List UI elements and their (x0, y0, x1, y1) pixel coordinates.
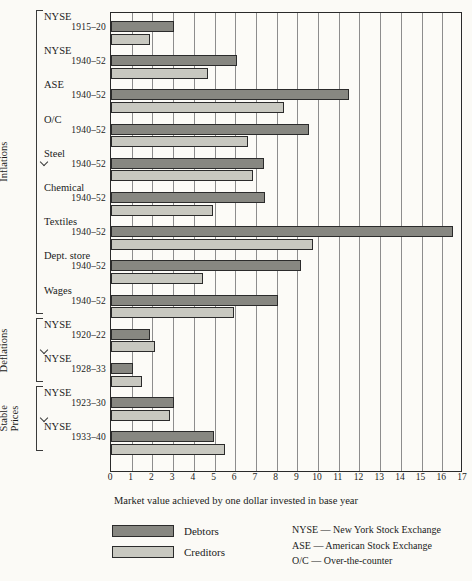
category-name: Wages (44, 285, 106, 296)
abbreviation-line: ASE — American Stock Exchange (292, 538, 441, 554)
category-name: O/C (44, 114, 106, 125)
bar-debtors (111, 363, 133, 374)
category-years: 1915–20 (44, 22, 106, 32)
category-years: 1933–40 (44, 432, 106, 442)
bar-creditors (111, 170, 253, 181)
category-label: Wages1940–52 (44, 285, 106, 306)
category-label: NYSE1940–52 (44, 45, 106, 66)
section-title: Inflations (0, 10, 9, 314)
bar-creditors (111, 68, 208, 79)
category-label: NYSE1923–30 (44, 387, 106, 408)
bar-creditors (111, 341, 155, 352)
x-axis-ticks: 01234567891011121314151617 (110, 472, 462, 486)
bar-rows (111, 13, 461, 471)
bar-creditors (111, 444, 225, 455)
section-title-line: Prices (9, 386, 20, 450)
bar-chart: NYSE1915–20NYSE1940–52ASE1940–52O/C1940–… (0, 0, 472, 581)
x-tick-label: 12 (354, 472, 364, 482)
bar-debtors (111, 89, 349, 100)
legend-label-creditors: Creditors (184, 546, 225, 558)
category-years: 1940–52 (44, 90, 106, 100)
category-years: 1940–52 (44, 261, 106, 271)
legend-item-debtors: Debtors (112, 522, 225, 539)
category-label: Steel1940–52 (44, 148, 106, 169)
bar-creditors (111, 136, 248, 147)
category-years: 1940–52 (44, 227, 106, 237)
plot-area (110, 12, 462, 472)
category-years: 1923–30 (44, 398, 106, 408)
section-title: StablePrices (0, 386, 20, 450)
x-tick-label: 0 (108, 472, 113, 482)
bar-creditors (111, 205, 213, 216)
category-name: NYSE (44, 45, 106, 56)
bar-debtors (111, 260, 301, 271)
bar-debtors (111, 431, 214, 442)
legend-label-debtors: Debtors (184, 525, 219, 537)
category-years: 1940–52 (44, 193, 106, 203)
legend-swatch-creditors (112, 546, 174, 558)
bar-debtors (111, 295, 278, 306)
category-name: NYSE (44, 387, 106, 398)
category-name: NYSE (44, 421, 106, 432)
x-tick-label: 13 (374, 472, 384, 482)
bar-creditors (111, 239, 313, 250)
bar-creditors (111, 102, 284, 113)
bar-creditors (111, 307, 234, 318)
x-tick-label: 7 (253, 472, 258, 482)
category-label: NYSE1920–22 (44, 319, 106, 340)
x-tick-label: 15 (416, 472, 426, 482)
bar-creditors (111, 410, 170, 421)
section-title: Deflations (0, 318, 9, 382)
bar-debtors (111, 158, 264, 169)
bar-debtors (111, 55, 237, 66)
category-name: ASE (44, 79, 106, 90)
category-name: Chemical (44, 182, 106, 193)
x-tick-label: 16 (437, 472, 447, 482)
category-label: ASE1940–52 (44, 79, 106, 100)
bar-debtors (111, 397, 174, 408)
bar-creditors (111, 376, 142, 387)
bar-creditors (111, 273, 203, 284)
section-brace (36, 386, 43, 450)
bar-debtors (111, 21, 174, 32)
x-tick-label: 1 (128, 472, 133, 482)
legend-swatch-debtors (112, 525, 174, 537)
category-label: Dept. store1940–52 (44, 250, 106, 271)
x-tick-label: 5 (211, 472, 216, 482)
category-years: 1928–33 (44, 364, 106, 374)
category-name: Steel (44, 148, 106, 159)
x-axis-caption: Market value achieved by one dollar inve… (0, 495, 472, 506)
category-label: NYSE1928–33 (44, 353, 106, 374)
legend: Debtors Creditors (112, 522, 225, 564)
abbreviation-line: NYSE — New York Stock Exchange (292, 522, 441, 538)
category-label: Textiles1940–52 (44, 216, 106, 237)
section-title-line: Stable (0, 386, 9, 450)
x-tick-label: 14 (395, 472, 405, 482)
category-name: Textiles (44, 216, 106, 227)
x-tick-label: 9 (294, 472, 299, 482)
category-name: NYSE (44, 319, 106, 330)
x-tick-label: 10 (312, 472, 322, 482)
bar-debtors (111, 192, 265, 203)
x-tick-label: 8 (273, 472, 278, 482)
category-name: Dept. store (44, 250, 106, 261)
section-brace (36, 10, 43, 314)
x-tick-label: 4 (190, 472, 195, 482)
bar-creditors (111, 34, 150, 45)
category-name: NYSE (44, 353, 106, 364)
x-tick-label: 17 (457, 472, 467, 482)
category-label: NYSE1915–20 (44, 11, 106, 32)
category-name: NYSE (44, 11, 106, 22)
category-years: 1940–52 (44, 159, 106, 169)
x-tick-label: 3 (170, 472, 175, 482)
category-label: NYSE1933–40 (44, 421, 106, 442)
category-years: 1940–52 (44, 125, 106, 135)
x-tick-label: 11 (333, 472, 342, 482)
bar-debtors (111, 226, 453, 237)
legend-item-creditors: Creditors (112, 543, 225, 560)
category-label: O/C1940–52 (44, 114, 106, 135)
abbreviation-line: O/C — Over-the-counter (292, 553, 441, 569)
category-label: Chemical1940–52 (44, 182, 106, 203)
category-years: 1940–52 (44, 56, 106, 66)
x-tick-label: 2 (149, 472, 154, 482)
